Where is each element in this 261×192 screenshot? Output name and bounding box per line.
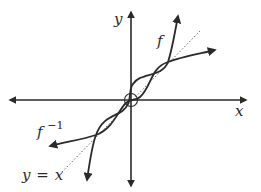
identity-label-y: y <box>21 166 31 184</box>
f-label: f <box>156 32 165 50</box>
identity-line-label: y = x <box>21 166 64 184</box>
f-inverse-label: f −1 <box>36 119 64 141</box>
curve-f-inverse <box>50 50 215 146</box>
f-inverse-label-exponent: −1 <box>47 119 63 132</box>
inverse-function-diagram: y x f f −1 y = x <box>0 0 261 192</box>
x-axis-label: x <box>235 102 244 120</box>
identity-label-equals: = <box>36 166 49 184</box>
curve-f <box>87 16 178 180</box>
y-axis-label: y <box>113 10 123 28</box>
f-inverse-label-base: f <box>36 123 45 141</box>
identity-label-x: x <box>55 166 64 184</box>
